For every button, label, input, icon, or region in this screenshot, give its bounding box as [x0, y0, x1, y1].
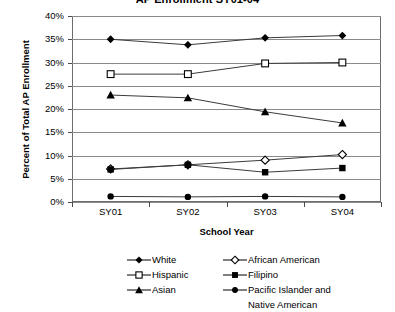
legend-item-asian[interactable]: Asian [126, 284, 222, 296]
legend-label: White [152, 254, 176, 266]
data-point [107, 35, 115, 43]
legend-label: Pacific Islander and [248, 284, 331, 296]
series-line [111, 63, 343, 75]
chart-legend: WhiteAfrican AmericanHispanicFilipinoAsi… [126, 254, 376, 312]
series-white [107, 32, 347, 49]
legend-marker-pacific-islander-and-native-american [222, 284, 248, 296]
series-filipino [107, 162, 345, 176]
series-asian [106, 91, 346, 127]
data-point [184, 71, 191, 78]
x-tick-label: SY03 [230, 206, 300, 217]
legend-label: Filipino [248, 269, 278, 281]
legend-marker-asian [126, 284, 152, 296]
x-tick-mark [149, 202, 150, 207]
series-line [111, 165, 343, 172]
legend-label-continuation: Native American [248, 299, 317, 311]
x-tick-mark [381, 202, 382, 207]
data-point [338, 32, 346, 40]
legend-label: African American [248, 254, 320, 266]
legend-row: HispanicFilipino [126, 269, 376, 284]
data-point [262, 60, 269, 67]
x-tick-label: SY01 [76, 206, 146, 217]
data-point [261, 34, 269, 42]
data-point [261, 156, 269, 164]
data-point [339, 59, 346, 66]
y-tick-label: 30% [20, 58, 64, 68]
legend-marker-hispanic [126, 269, 152, 281]
y-tick-label: 5% [20, 174, 64, 184]
data-point [262, 169, 268, 175]
y-tick-label: 25% [20, 81, 64, 91]
legend-item-pacific-islander-and-native-american[interactable]: Pacific Islander and [222, 284, 376, 296]
legend-item-filipino[interactable]: Filipino [222, 269, 376, 281]
series-line [111, 95, 343, 123]
x-tick-label: SY04 [307, 206, 377, 217]
y-tick-label: 15% [20, 127, 64, 137]
legend-item-hispanic[interactable]: Hispanic [126, 269, 222, 281]
legend-item-white[interactable]: White [126, 254, 222, 266]
legend-label: Asian [152, 284, 176, 296]
legend-row-continuation: Native American [126, 299, 376, 312]
x-tick-mark [72, 202, 73, 207]
data-point [107, 71, 114, 78]
legend-item-african-american[interactable]: African American [222, 254, 376, 266]
x-tick-mark [227, 202, 228, 207]
data-point [185, 194, 191, 200]
x-axis-title: School Year [72, 226, 381, 237]
x-tick-label: SY02 [153, 206, 223, 217]
legend-marker-african-american [222, 254, 248, 266]
data-point [107, 193, 113, 199]
legend-label: Hispanic [152, 269, 188, 281]
series-line [111, 36, 343, 45]
legend-marker-filipino [222, 269, 248, 281]
legend-row: AsianPacific Islander and [126, 284, 376, 299]
series-line [111, 155, 343, 169]
y-tick-label: 35% [20, 34, 64, 44]
series-pacific-islander-and-native-american [107, 193, 345, 200]
data-point [107, 166, 113, 172]
y-tick-label: 10% [20, 151, 64, 161]
data-point [262, 193, 268, 199]
x-tick-mark [304, 202, 305, 207]
y-tick-label: 20% [20, 104, 64, 114]
y-tick-label: 0% [20, 197, 64, 207]
y-tick-label: 40% [20, 11, 64, 21]
data-point [184, 41, 192, 49]
data-point [338, 150, 346, 158]
legend-marker-white [126, 254, 152, 266]
data-point [339, 165, 345, 171]
chart-title: AP Enrollment SY01-04 [0, 0, 395, 5]
legend-label-continuation-wrap: Native American [222, 299, 376, 311]
data-point [185, 162, 191, 168]
legend-row: WhiteAfrican American [126, 254, 376, 269]
data-point [339, 194, 345, 200]
series-hispanic [107, 59, 346, 77]
series-plot [72, 16, 381, 202]
